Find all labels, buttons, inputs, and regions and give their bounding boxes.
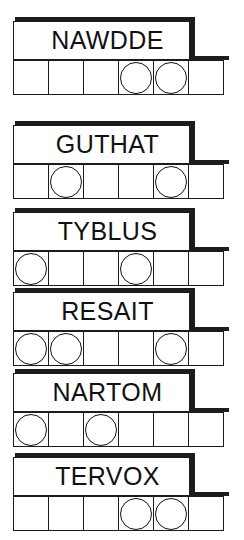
circle-marker-icon — [155, 166, 187, 198]
word-title-text: NAWDDE — [39, 28, 164, 54]
word-title-text: RESAIT — [49, 299, 154, 325]
answer-cell[interactable] — [84, 252, 119, 285]
puzzle-sheet: NAWDDEGUTHATTYBLUSRESAITNARTOMTERVOX — [0, 0, 244, 540]
circle-marker-icon — [155, 333, 187, 365]
circle-marker-icon — [120, 62, 152, 94]
answer-cell[interactable] — [119, 413, 154, 446]
answer-cell[interactable] — [49, 497, 84, 530]
answer-grid-row — [13, 60, 224, 95]
title-shadow-right — [190, 208, 195, 251]
answer-cell[interactable] — [49, 61, 84, 94]
circle-marker-icon — [50, 333, 82, 365]
answer-cell[interactable] — [14, 332, 49, 365]
answer-cell[interactable] — [84, 413, 119, 446]
answer-cell[interactable] — [154, 165, 189, 198]
answer-cell[interactable] — [189, 252, 223, 285]
answer-cell[interactable] — [154, 61, 189, 94]
answer-grid-row — [13, 496, 224, 531]
title-shadow-right — [190, 453, 195, 496]
answer-cell[interactable] — [119, 165, 154, 198]
answer-cell[interactable] — [189, 61, 223, 94]
answer-cell[interactable] — [119, 497, 154, 530]
word-title-container: NARTOM — [13, 373, 190, 412]
word-title-box: GUTHAT — [13, 125, 190, 164]
puzzle-block: NARTOM — [13, 373, 224, 447]
answer-cell[interactable] — [119, 332, 154, 365]
word-title-text: NARTOM — [41, 380, 163, 406]
answer-cell[interactable] — [154, 497, 189, 530]
circle-marker-icon — [15, 253, 47, 285]
answer-cell[interactable] — [84, 497, 119, 530]
circle-marker-icon — [120, 498, 152, 530]
title-shadow-right — [190, 121, 195, 164]
puzzle-block: NAWDDE — [13, 21, 224, 95]
answer-cell[interactable] — [119, 61, 154, 94]
answer-cell[interactable] — [119, 252, 154, 285]
answer-cell[interactable] — [14, 61, 49, 94]
answer-cell[interactable] — [14, 413, 49, 446]
circle-marker-icon — [155, 62, 187, 94]
circle-marker-icon — [50, 166, 82, 198]
answer-cell[interactable] — [154, 413, 189, 446]
word-title-container: TYBLUS — [13, 212, 190, 251]
answer-cell[interactable] — [154, 332, 189, 365]
answer-cell[interactable] — [49, 332, 84, 365]
puzzle-block: TERVOX — [13, 457, 224, 531]
word-title-text: TERVOX — [43, 464, 160, 490]
word-title-container: GUTHAT — [13, 125, 190, 164]
answer-cell[interactable] — [49, 413, 84, 446]
answer-cell[interactable] — [189, 332, 223, 365]
word-title-box: NARTOM — [13, 373, 190, 412]
word-title-container: RESAIT — [13, 292, 190, 331]
answer-grid-row — [13, 164, 224, 199]
puzzle-block: RESAIT — [13, 292, 224, 366]
word-title-box: TERVOX — [13, 457, 190, 496]
title-shadow-right — [190, 288, 195, 331]
circle-marker-icon — [15, 414, 47, 446]
puzzle-block: TYBLUS — [13, 212, 224, 286]
puzzle-block: GUTHAT — [13, 125, 224, 199]
word-title-text: GUTHAT — [44, 132, 159, 158]
answer-cell[interactable] — [14, 252, 49, 285]
answer-cell[interactable] — [189, 165, 223, 198]
circle-marker-icon — [85, 414, 117, 446]
answer-cell[interactable] — [189, 413, 223, 446]
word-title-container: TERVOX — [13, 457, 190, 496]
answer-cell[interactable] — [84, 61, 119, 94]
answer-grid-row — [13, 412, 224, 447]
answer-cell[interactable] — [189, 497, 223, 530]
answer-grid-row — [13, 331, 224, 366]
word-title-text: TYBLUS — [46, 219, 158, 245]
answer-cell[interactable] — [84, 165, 119, 198]
answer-cell[interactable] — [14, 165, 49, 198]
word-title-container: NAWDDE — [13, 21, 190, 60]
answer-cell[interactable] — [49, 165, 84, 198]
answer-grid-row — [13, 251, 224, 286]
answer-cell[interactable] — [14, 497, 49, 530]
title-shadow-right — [190, 17, 195, 60]
word-title-box: RESAIT — [13, 292, 190, 331]
word-title-box: NAWDDE — [13, 21, 190, 60]
answer-cell[interactable] — [154, 252, 189, 285]
circle-marker-icon — [120, 253, 152, 285]
word-title-box: TYBLUS — [13, 212, 190, 251]
title-shadow-right — [190, 369, 195, 412]
answer-cell[interactable] — [84, 332, 119, 365]
circle-marker-icon — [15, 333, 47, 365]
answer-cell[interactable] — [49, 252, 84, 285]
circle-marker-icon — [155, 498, 187, 530]
